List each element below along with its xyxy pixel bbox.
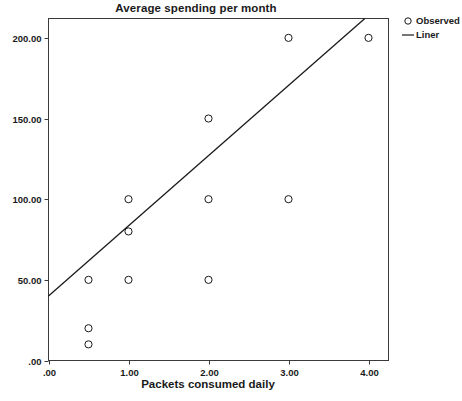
data-point [125,276,132,283]
data-point [205,196,212,203]
y-axis-ticks [45,39,49,362]
data-point [85,341,92,348]
y-tick-label: 100.00 [0,194,42,205]
x-tick-label: 3.00 [265,367,315,378]
x-tick-label: 2.00 [185,367,235,378]
data-point [285,196,292,203]
x-tick-label: 4.00 [345,367,395,378]
legend-label-liner: Liner [416,29,439,41]
x-axis-title: Packets consumed daily [48,378,368,390]
data-point [365,34,372,41]
line-segment-marker-icon [400,29,416,41]
y-tick-label: 200.00 [0,33,42,44]
y-tick-label: 150.00 [0,114,42,125]
legend-item-observed[interactable]: Observed [400,14,462,27]
chart-legend: Observed Liner [400,14,462,42]
x-tick-label: .00 [25,367,75,378]
data-point [125,228,132,235]
data-point [205,115,212,122]
y-tick-label: .00 [0,356,42,367]
data-point [125,196,132,203]
data-point [205,276,212,283]
legend-item-liner[interactable]: Liner [400,28,462,41]
data-point [85,276,92,283]
data-point [85,325,92,332]
legend-label-observed: Observed [416,15,460,27]
open-circle-marker-icon [400,15,416,27]
axes-frame [49,19,389,361]
observed-data-points [85,34,372,348]
plot-area [0,0,462,401]
x-axis-ticks [50,361,370,365]
linear-fit-line [49,19,365,296]
y-tick-label: 50.00 [0,275,42,286]
chart-container: Average spending per month .0050.00100.0… [0,0,462,401]
x-tick-label: 1.00 [105,367,155,378]
data-point [285,34,292,41]
